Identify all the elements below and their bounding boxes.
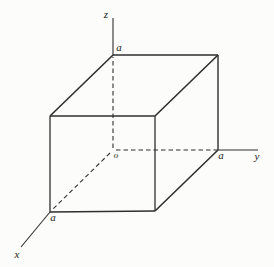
cube-diagram-svg: zaoayax <box>0 0 274 267</box>
x-axis <box>21 212 50 247</box>
edge-top-right <box>155 55 218 116</box>
edge-length-top-label: a <box>116 41 122 53</box>
edge-length-front-label: a <box>50 211 56 223</box>
figure: zaoayax <box>0 0 274 267</box>
z-axis-label: z <box>103 8 109 20</box>
edge-length-right-label: a <box>218 149 224 161</box>
origin-label: o <box>114 150 119 160</box>
x-axis-label: x <box>14 248 20 260</box>
edge-bottom-right <box>155 150 218 211</box>
y-axis-label: y <box>254 150 260 162</box>
edge-top-left <box>50 55 113 116</box>
edge-front-bottom <box>50 211 155 212</box>
hidden-edge-origin-diagonal <box>51 153 110 211</box>
